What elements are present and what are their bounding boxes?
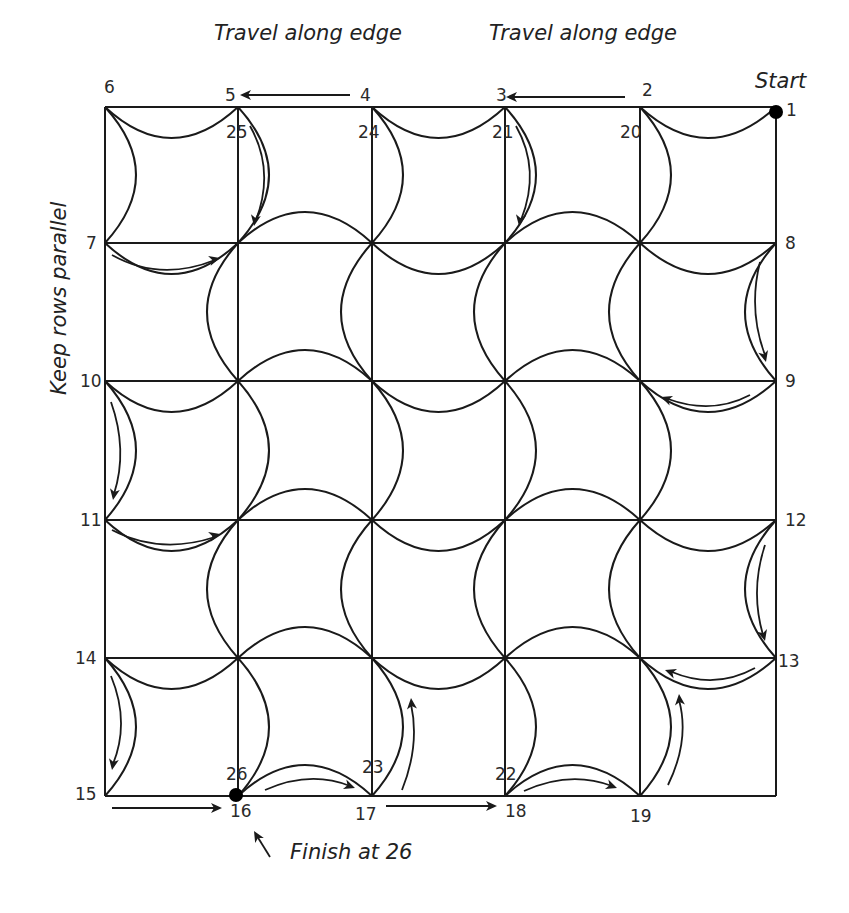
node-label-25: 25 xyxy=(226,122,248,142)
node-label-14: 14 xyxy=(75,648,97,668)
quilt-arc xyxy=(640,658,671,796)
node-label-15: 15 xyxy=(75,784,97,804)
edge-15-to-16-arrow-icon xyxy=(112,803,222,813)
node-label-8: 8 xyxy=(785,233,796,253)
node-label-13: 13 xyxy=(778,651,800,671)
node-label-17: 17 xyxy=(355,804,377,824)
quilt-arc xyxy=(640,243,776,274)
quilting-arcs xyxy=(105,107,776,796)
direction-arrows xyxy=(107,90,771,857)
node-label-18: 18 xyxy=(505,801,527,821)
start-dot-icon xyxy=(769,105,783,119)
arc-8-down-arrow-icon xyxy=(755,262,771,363)
node-label-20: 20 xyxy=(620,122,642,142)
edge-4-to-5-arrow-icon xyxy=(240,90,350,100)
arc-10-down-arrow-icon xyxy=(108,402,120,501)
node-label-5: 5 xyxy=(225,85,236,105)
travel-along-edge-left: Travel along edge xyxy=(214,21,402,45)
node-label-26: 26 xyxy=(226,764,248,784)
node-label-6: 6 xyxy=(104,77,115,97)
node-label-24: 24 xyxy=(358,122,380,142)
node-label-3: 3 xyxy=(496,85,507,105)
edge-17-to-18-arrow-icon xyxy=(386,801,497,811)
node-label-4: 4 xyxy=(360,85,371,105)
start-label: Start xyxy=(755,69,807,93)
node-label-16: 16 xyxy=(230,801,252,821)
arc-26-right-arrow-icon xyxy=(265,779,357,793)
quilt-arc xyxy=(505,381,536,520)
keep-rows-parallel-label: Keep rows parallel xyxy=(47,202,71,395)
travel-along-edge-right: Travel along edge xyxy=(489,21,677,45)
node-label-9: 9 xyxy=(785,371,796,391)
node-label-1: 1 xyxy=(786,100,797,120)
node-labels: 1234567891011121314151617181920212223242… xyxy=(75,77,807,826)
edge-2-to-3-arrow-icon xyxy=(506,92,625,102)
node-label-22: 22 xyxy=(495,764,517,784)
quilt-arc xyxy=(609,520,640,658)
finish-label: Finish at 26 xyxy=(290,840,412,864)
node-label-23: 23 xyxy=(362,757,384,777)
node-label-7: 7 xyxy=(86,233,97,253)
grid xyxy=(105,107,776,796)
arc-14-down-arrow-icon xyxy=(107,676,121,771)
finish-dot-icon xyxy=(229,788,243,802)
arc-22-right-arrow-icon xyxy=(524,779,619,793)
arc-17-up-arrow-icon xyxy=(402,698,417,790)
quilt-arc xyxy=(640,520,776,551)
quilt-arc xyxy=(640,381,776,412)
quilting-path-diagram: 1234567891011121314151617181920212223242… xyxy=(0,0,849,913)
node-label-10: 10 xyxy=(80,371,102,391)
finish-pointer-arrow-icon xyxy=(250,829,270,858)
quilt-arc xyxy=(640,658,776,689)
quilt-arc xyxy=(505,489,640,520)
arc-12-down-arrow-icon xyxy=(757,545,770,642)
arc-13-left-arrow-icon xyxy=(663,665,755,680)
quilt-arc xyxy=(238,381,269,520)
node-label-19: 19 xyxy=(630,806,652,826)
quilt-arc xyxy=(745,520,776,658)
node-label-11: 11 xyxy=(80,510,102,530)
node-label-12: 12 xyxy=(785,510,807,530)
quilt-arc xyxy=(609,243,640,381)
node-label-2: 2 xyxy=(642,80,653,100)
node-label-21: 21 xyxy=(492,122,514,142)
